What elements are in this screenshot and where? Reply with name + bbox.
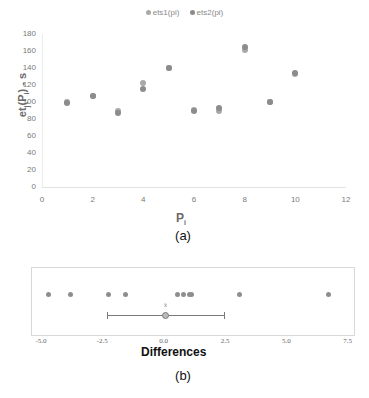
difference-point [46, 292, 51, 297]
legend-label-ets1: ets1(pi) [153, 8, 180, 17]
chart-a-y-tick: 0 [10, 182, 36, 191]
mean-marker-label: x̄ [162, 302, 168, 308]
chart-a-x-tick: 8 [235, 195, 255, 204]
chart-a-y-tick: 20 [10, 165, 36, 174]
chart-b-x-tick: 5.0 [274, 337, 298, 345]
ci-upper-cap [224, 312, 225, 319]
chart-a-y-axis-line [42, 34, 43, 187]
chart-b-x-tick: 0.0 [152, 337, 176, 345]
chart-a-y-tick: 40 [10, 148, 36, 157]
data-point-ets2pi [242, 44, 248, 50]
chart-a-x-axis-line [42, 187, 346, 188]
legend-item-ets1: ets1(pi) [146, 8, 180, 17]
legend-swatch-ets1-icon [146, 10, 151, 15]
difference-point [106, 292, 111, 297]
chart-a-legend: ets1(pi) ets2(pi) [0, 8, 369, 17]
chart-a-y-axis-label: etj(Pi) - s [16, 60, 30, 130]
chart-b-x-axis-label: Differences [141, 345, 206, 359]
legend-swatch-ets2-icon [190, 10, 195, 15]
chart-a-x-tick: 10 [285, 195, 305, 204]
chart-b-caption: (b) [163, 368, 203, 383]
chart-b-x-tick: 2.5 [213, 337, 237, 345]
chart-a-y-tick: 180 [10, 29, 36, 38]
difference-point [175, 292, 180, 297]
difference-point [68, 292, 73, 297]
legend-label-ets2: ets2(pi) [197, 8, 224, 17]
chart-a-x-tick: 6 [184, 195, 204, 204]
chart-a-x-tick: 4 [133, 195, 153, 204]
chart-a-y-tick: 160 [10, 46, 36, 55]
legend-item-ets2: ets2(pi) [190, 8, 224, 17]
data-point-ets2pi [191, 108, 197, 114]
chart-a-caption: (a) [163, 228, 203, 243]
data-point-ets2pi [90, 93, 96, 99]
chart-b-x-tick: -2.5 [90, 337, 114, 345]
data-point-ets2pi [140, 86, 146, 92]
chart-b-x-tick: -5.0 [29, 337, 53, 345]
chart-b-x-tick: 7.5 [336, 337, 360, 345]
data-point-ets2pi [267, 99, 273, 105]
chart-a-x-tick: 12 [336, 195, 356, 204]
chart-a-x-tick: 0 [32, 195, 52, 204]
data-point-ets2pi [115, 110, 121, 116]
chart-a-y-tick: 60 [10, 131, 36, 140]
chart-b-frame [31, 267, 355, 336]
chart-a-x-tick: 2 [83, 195, 103, 204]
data-point-ets2pi [64, 100, 70, 106]
chart-a-x-axis-label: Pi [176, 211, 186, 226]
data-point-ets2pi [166, 65, 172, 71]
difference-point [326, 292, 331, 297]
difference-point [181, 292, 186, 297]
ci-lower-cap [107, 312, 108, 319]
